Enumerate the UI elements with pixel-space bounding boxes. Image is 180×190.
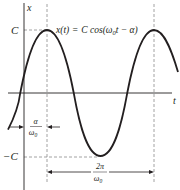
arrow-right-icon: [149, 170, 154, 174]
period-numerator: 2π: [96, 162, 105, 171]
period-annotation: 2π ω0: [47, 162, 154, 184]
vertical-axis-label: x: [26, 2, 32, 13]
arrow-left-icon: [47, 125, 52, 129]
phase-numerator: α: [33, 117, 38, 126]
arrow-right-icon: [19, 125, 24, 129]
max-level-label: C: [11, 24, 19, 36]
min-level-label: −C: [3, 150, 18, 162]
oscillation-diagram: x t C −C x(t) = C cos(ω0t − α) α ω0: [0, 0, 180, 190]
arrow-left-icon: [47, 170, 52, 174]
phase-annotation: α ω0: [9, 117, 60, 138]
period-denominator: ω0: [94, 174, 103, 184]
horizontal-axis-label: t: [173, 95, 176, 106]
equation-label: x(t) = C cos(ω0t − α): [55, 25, 138, 36]
phase-denominator: ω0: [29, 128, 38, 138]
